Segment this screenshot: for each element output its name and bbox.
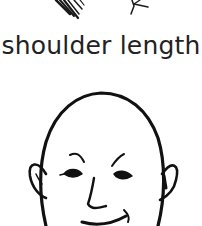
hair-strokes-illustration [0, 0, 202, 26]
caption-label: shoulder length [0, 30, 202, 62]
bald-head-illustration [0, 80, 202, 226]
